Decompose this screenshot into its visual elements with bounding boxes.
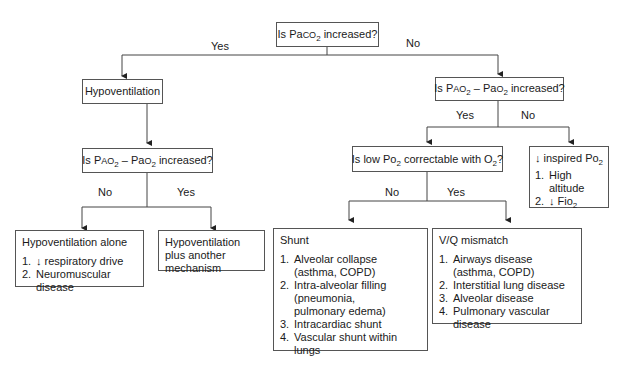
list-item: 2.↓ Fio2	[535, 195, 603, 208]
edge-label-yes-right: Yes	[456, 109, 474, 121]
list-item: 4.Vascular shunt within lungs	[280, 331, 421, 357]
gradient-question-right-box: Is PAO2 – PaO2 increased?	[435, 77, 564, 101]
root-question-text: Is PaCO2 increased?	[278, 28, 378, 42]
list-item: 2.Intra-alveolar filling (pneumonia, pul…	[280, 279, 421, 318]
hypoventilation-plus-box: Hypoventilation plus another mechanism	[158, 230, 265, 271]
shunt-title: Shunt	[280, 234, 421, 247]
list-item: 3.Intracardiac shunt	[280, 318, 421, 331]
hypoventilation-plus-text: Hypoventilation plus another mechanism	[165, 236, 258, 275]
correctable-question-text: Is low Po2 correctable with O2?	[352, 153, 503, 166]
list-item: 4.Pulmonary vascular disease	[439, 305, 575, 331]
list-item: 2.Neuromuscular disease	[22, 268, 137, 294]
hypoventilation-alone-list: 1.↓ respiratory drive 2.Neuromuscular di…	[22, 255, 137, 294]
inspired-po2-list: 1.High altitude 2.↓ Fio2	[535, 169, 603, 208]
list-item: 2.Interstitial lung disease	[439, 279, 575, 292]
inspired-po2-box: ↓ inspired Po2 1.High altitude 2.↓ Fio2	[529, 146, 609, 208]
inspired-po2-title: ↓ inspired Po2	[535, 152, 603, 165]
list-item: 1.Airways disease (asthma, COPD)	[439, 253, 575, 279]
list-item: 3.Alveolar disease	[439, 292, 575, 305]
gradient-question-left-text: Is PAO2 – PaO2 increased?	[82, 154, 212, 168]
root-question-box: Is PaCO2 increased?	[276, 22, 379, 47]
edge-label-yes-left: Yes	[177, 186, 195, 198]
correctable-question-box: Is low Po2 correctable with O2?	[352, 146, 503, 172]
shunt-box: Shunt 1.Alveolar collapse (asthma, COPD)…	[273, 228, 428, 351]
edge-label-no-root: No	[406, 37, 420, 49]
hypoventilation-alone-title: Hypoventilation alone	[22, 236, 137, 249]
gradient-question-right-text: Is PAO2 – PaO2 increased?	[434, 82, 564, 96]
shunt-list: 1.Alveolar collapse (asthma, COPD) 2.Int…	[280, 253, 421, 357]
edge-label-yes-correctable: Yes	[447, 186, 465, 198]
edge-label-no-right: No	[521, 109, 535, 121]
edge-label-no-correctable: No	[385, 186, 399, 198]
list-item: 1.↓ respiratory drive	[22, 255, 137, 268]
vq-mismatch-box: V/Q mismatch 1.Airways disease (asthma, …	[432, 228, 582, 324]
vq-mismatch-title: V/Q mismatch	[439, 234, 575, 247]
hypoventilation-box: Hypoventilation	[82, 79, 163, 104]
edge-label-yes-root: Yes	[211, 40, 229, 52]
hypoventilation-alone-box: Hypoventilation alone 1.↓ respiratory dr…	[15, 230, 144, 287]
list-item: 1.High altitude	[535, 169, 603, 195]
gradient-question-left-box: Is PAO2 – PaO2 increased?	[82, 148, 213, 173]
list-item: 1.Alveolar collapse (asthma, COPD)	[280, 253, 421, 279]
vq-mismatch-list: 1.Airways disease (asthma, COPD) 2.Inter…	[439, 253, 575, 331]
edge-label-no-left: No	[98, 186, 112, 198]
